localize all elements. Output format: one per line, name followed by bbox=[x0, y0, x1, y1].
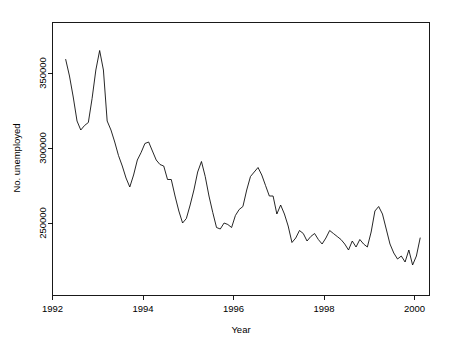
x-axis-title: Year bbox=[231, 324, 250, 335]
x-tick-label-1994: 1994 bbox=[132, 303, 153, 314]
chart-container: 350000 300000 250000 No. unemployed 1992… bbox=[0, 0, 457, 343]
y-axis-tick-labels: 350000 300000 250000 bbox=[37, 57, 48, 239]
x-tick-label-1998: 1998 bbox=[313, 303, 334, 314]
unemployment-line-chart: 350000 300000 250000 No. unemployed 1992… bbox=[0, 0, 457, 343]
y-tick-label-350000: 350000 bbox=[37, 57, 48, 89]
y-axis-title: No. unemployed bbox=[11, 123, 22, 192]
y-tick-label-250000: 250000 bbox=[37, 207, 48, 239]
x-tick-label-2000: 2000 bbox=[404, 303, 425, 314]
chart-background bbox=[0, 0, 457, 343]
y-tick-label-300000: 300000 bbox=[37, 132, 48, 164]
x-tick-label-1992: 1992 bbox=[42, 303, 63, 314]
x-tick-label-1996: 1996 bbox=[223, 303, 244, 314]
